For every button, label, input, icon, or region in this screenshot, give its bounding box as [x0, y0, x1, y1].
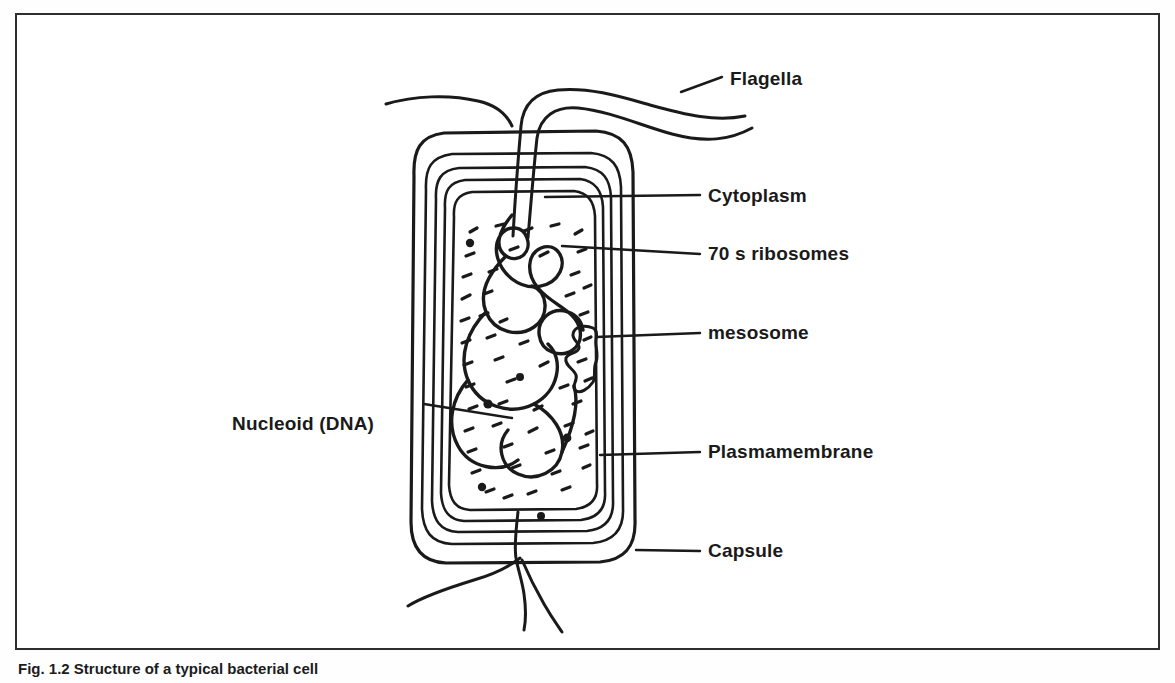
cytoplasm-ribosome-stipple: [461, 224, 593, 498]
leader-flagella: [681, 77, 722, 92]
label-nucleoid: Nucleoid (DNA): [232, 413, 374, 435]
label-plasmamembrane: Plasmamembrane: [708, 441, 873, 463]
figure-page: Flagella Cytoplasm 70 s ribosomes mesoso…: [0, 0, 1175, 683]
figure-caption: Fig. 1.2 Structure of a typical bacteria…: [18, 660, 318, 677]
bacterial-cell-drawing: [0, 0, 1175, 683]
leader-plasmamembrane: [600, 452, 700, 455]
label-ribosomes: 70 s ribosomes: [708, 243, 849, 265]
label-mesosome: mesosome: [708, 322, 809, 344]
leader-capsule: [636, 550, 700, 551]
label-flagella: Flagella: [730, 68, 802, 90]
label-capsule: Capsule: [708, 540, 783, 562]
label-cytoplasm: Cytoplasm: [708, 185, 807, 207]
leader-cytoplasm: [545, 195, 700, 197]
flagella-top: [386, 89, 752, 238]
flagella-bottom: [408, 512, 562, 632]
